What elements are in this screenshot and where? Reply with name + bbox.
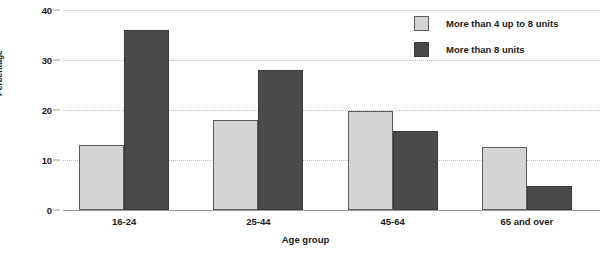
y-tick-mark	[53, 60, 60, 61]
x-axis-title: Age group	[0, 234, 611, 245]
bar[interactable]	[213, 120, 258, 210]
y-tick-label: 40	[0, 5, 52, 16]
x-tick-label: 45-64	[380, 216, 404, 227]
x-tick-label: 16-24	[112, 216, 136, 227]
bar-group	[79, 10, 169, 210]
bar[interactable]	[258, 70, 303, 210]
bar[interactable]	[79, 145, 124, 210]
legend-item[interactable]: More than 4 up to 8 units	[414, 12, 604, 34]
x-tick-label: 25-44	[246, 216, 270, 227]
y-tick-label: 30	[0, 55, 52, 66]
bar-group	[213, 10, 303, 210]
y-tick-mark	[53, 160, 60, 161]
bar[interactable]	[348, 111, 393, 210]
gridline	[63, 210, 600, 211]
legend-item[interactable]: More than 8 units	[414, 38, 604, 60]
y-tick-label: 10	[0, 155, 52, 166]
bar[interactable]	[482, 147, 527, 211]
legend-swatch-dark-icon	[414, 42, 429, 57]
legend-label: More than 8 units	[446, 44, 525, 55]
y-tick-mark	[53, 210, 60, 211]
y-tick-label: 20	[0, 105, 52, 116]
bar[interactable]	[124, 30, 169, 210]
x-tick-label: 65 and over	[500, 216, 553, 227]
bar[interactable]	[393, 131, 438, 211]
y-tick-mark	[53, 110, 60, 111]
legend-label: More than 4 up to 8 units	[446, 18, 558, 29]
chart-legend: More than 4 up to 8 units More than 8 un…	[414, 12, 604, 64]
y-tick-label: 0	[0, 205, 52, 216]
legend-swatch-light-icon	[414, 16, 429, 31]
y-tick-mark	[53, 10, 60, 11]
bar[interactable]	[527, 186, 572, 210]
bar-chart: Percentage 010203040 16-2425-4445-6465 a…	[0, 0, 611, 253]
